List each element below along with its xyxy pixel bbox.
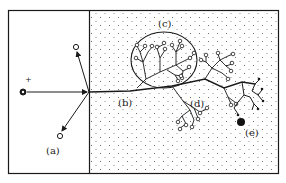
charge-dot-e bbox=[237, 118, 245, 126]
label-d: (d) bbox=[190, 99, 204, 109]
charge-sign-label: + bbox=[25, 76, 32, 84]
label-a: (a) bbox=[46, 146, 60, 156]
diagram-canvas bbox=[0, 0, 286, 183]
stippled-region bbox=[90, 11, 279, 173]
label-b: (b) bbox=[118, 98, 132, 108]
label-e: (e) bbox=[245, 128, 259, 138]
diagram-figure: + (a) (b) (c) (d) (e) bbox=[0, 0, 286, 183]
lower-endpoint-circle bbox=[57, 133, 62, 138]
label-c: (c) bbox=[158, 19, 171, 29]
upper-endpoint-circle bbox=[73, 44, 78, 49]
